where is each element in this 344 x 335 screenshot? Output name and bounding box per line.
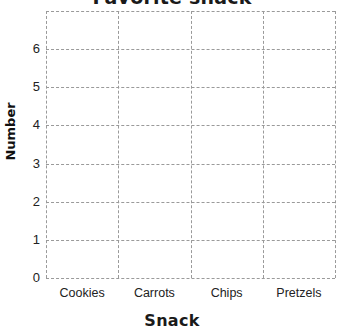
y-tick-label: 5 [6, 79, 40, 94]
gridline-horizontal [46, 125, 335, 126]
gridline-horizontal [46, 240, 335, 241]
y-tick-label: 4 [6, 117, 40, 132]
x-tick-label: Pretzels [263, 286, 335, 300]
y-tick-label: 0 [6, 270, 40, 285]
gridline-horizontal [46, 49, 335, 50]
y-tick-label: 3 [6, 156, 40, 171]
y-tick-label: 6 [6, 41, 40, 56]
gridline-vertical [191, 11, 192, 278]
x-axis-title: Snack [0, 311, 344, 330]
x-tick-label: Carrots [118, 286, 190, 300]
gridline-horizontal [46, 11, 335, 12]
x-tick-label: Cookies [46, 286, 118, 300]
y-tick-label: 1 [6, 232, 40, 247]
gridline-vertical [263, 11, 264, 278]
chart-title: Favorite snack [0, 0, 344, 8]
x-tick-label: Chips [191, 286, 263, 300]
gridline-vertical [46, 11, 47, 278]
gridline-horizontal [46, 202, 335, 203]
plot-area [46, 11, 335, 278]
gridline-horizontal [46, 278, 335, 279]
y-tick-label: 2 [6, 194, 40, 209]
gridline-horizontal [46, 164, 335, 165]
gridline-vertical [118, 11, 119, 278]
gridline-vertical [335, 11, 336, 278]
bar-chart: Favorite snack Number 0123456 CookiesCar… [0, 0, 344, 335]
gridline-horizontal [46, 87, 335, 88]
